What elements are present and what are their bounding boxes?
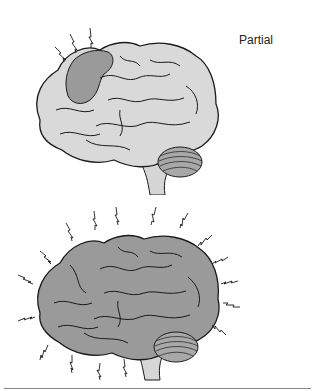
bottom-divider xyxy=(4,388,311,389)
generalized-brain-illustration xyxy=(0,195,321,387)
partial-seizure-panel: Partial xyxy=(0,0,321,195)
partial-label: Partial xyxy=(239,33,273,47)
partial-brain-illustration xyxy=(0,0,321,195)
generalized-seizure-panel: Generalized xyxy=(0,195,321,387)
